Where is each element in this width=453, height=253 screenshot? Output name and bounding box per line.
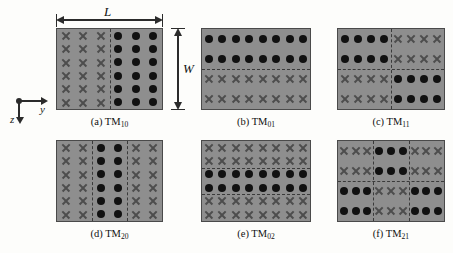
nodal-line-horizontal <box>202 194 310 195</box>
field-region-cross <box>57 141 92 221</box>
field-into-page-cross-icon <box>131 156 140 165</box>
field-out-of-page-dot-icon <box>393 95 402 104</box>
field-out-of-page-dot-icon <box>114 31 123 40</box>
field-out-of-page-dot-icon <box>339 187 348 196</box>
field-out-of-page-dot-icon <box>258 55 267 64</box>
field-out-of-page-dot-icon <box>114 210 123 219</box>
field-out-of-page-dot-icon <box>245 183 254 192</box>
field-out-of-page-dot-icon <box>231 170 240 179</box>
field-out-of-page-dot-icon <box>114 98 123 107</box>
field-into-page-cross-icon <box>258 156 267 165</box>
dimension-arrowhead-left-icon <box>56 16 64 24</box>
field-out-of-page-dot-icon <box>114 84 123 93</box>
field-out-of-page-dot-icon <box>96 210 105 219</box>
field-region-cross <box>202 194 310 221</box>
field-region-grid <box>202 141 310 221</box>
field-into-page-cross-icon <box>272 210 281 219</box>
field-into-page-cross-icon <box>258 75 267 84</box>
field-into-page-cross-icon <box>406 55 415 64</box>
field-out-of-page-dot-icon <box>285 170 294 179</box>
panel-caption-text: (e) TM <box>237 228 267 239</box>
field-out-of-page-dot-icon <box>245 35 254 44</box>
field-out-of-page-dot-icon <box>433 75 442 84</box>
field-out-of-page-dot-icon <box>375 167 384 176</box>
field-into-page-cross-icon <box>96 44 105 53</box>
field-into-page-cross-icon <box>218 95 227 104</box>
field-into-page-cross-icon <box>149 183 158 192</box>
field-out-of-page-dot-icon <box>231 55 240 64</box>
field-out-of-page-dot-icon <box>204 55 213 64</box>
field-out-of-page-dot-icon <box>131 58 140 67</box>
field-into-page-cross-icon <box>61 44 70 53</box>
field-into-page-cross-icon <box>204 75 213 84</box>
field-out-of-page-dot-icon <box>149 84 158 93</box>
field-region-cross <box>202 141 310 168</box>
field-out-of-page-dot-icon <box>367 55 376 64</box>
field-into-page-cross-icon <box>367 95 376 104</box>
panel-caption-text: (c) TM <box>372 116 402 127</box>
dimension-arrowhead-right-icon <box>155 16 163 24</box>
field-out-of-page-dot-icon <box>204 183 213 192</box>
field-out-of-page-dot-icon <box>245 170 254 179</box>
mode-panel-tm02: (e) TM02 <box>201 140 311 244</box>
field-out-of-page-dot-icon <box>245 55 254 64</box>
panel-caption-b: (b) TM01 <box>201 116 311 127</box>
field-into-page-cross-icon <box>149 156 158 165</box>
field-out-of-page-dot-icon <box>434 187 443 196</box>
dimension-line-width <box>177 28 179 110</box>
field-out-of-page-dot-icon <box>96 183 105 192</box>
field-into-page-cross-icon <box>386 187 395 196</box>
field-out-of-page-dot-icon <box>258 170 267 179</box>
field-into-page-cross-icon <box>231 196 240 205</box>
field-into-page-cross-icon <box>258 210 267 219</box>
field-into-page-cross-icon <box>231 95 240 104</box>
waveguide-cross-section <box>201 140 311 222</box>
field-into-page-cross-icon <box>218 75 227 84</box>
field-out-of-page-dot-icon <box>353 35 362 44</box>
field-into-page-cross-icon <box>79 84 88 93</box>
field-out-of-page-dot-icon <box>375 147 384 156</box>
field-out-of-page-dot-icon <box>218 35 227 44</box>
field-into-page-cross-icon <box>433 35 442 44</box>
field-into-page-cross-icon <box>231 75 240 84</box>
field-out-of-page-dot-icon <box>114 143 123 152</box>
field-into-page-cross-icon <box>61 156 70 165</box>
field-out-of-page-dot-icon <box>149 44 158 53</box>
field-out-of-page-dot-icon <box>386 147 395 156</box>
field-out-of-page-dot-icon <box>149 31 158 40</box>
field-into-page-cross-icon <box>149 143 158 152</box>
field-into-page-cross-icon <box>61 98 70 107</box>
field-out-of-page-dot-icon <box>386 167 395 176</box>
nodal-line-horizontal <box>338 69 444 70</box>
field-out-of-page-dot-icon <box>218 183 227 192</box>
field-into-page-cross-icon <box>131 143 140 152</box>
field-into-page-cross-icon <box>204 210 213 219</box>
waveguide-cross-section <box>56 140 163 222</box>
panel-caption-text: (a) TM <box>91 116 121 127</box>
field-out-of-page-dot-icon <box>410 207 419 216</box>
field-out-of-page-dot-icon <box>218 170 227 179</box>
panel-caption-subscript: 21 <box>402 232 410 241</box>
dimension-arrowhead-top-icon <box>174 28 182 36</box>
field-into-page-cross-icon <box>380 75 389 84</box>
field-into-page-cross-icon <box>79 210 88 219</box>
field-into-page-cross-icon <box>79 31 88 40</box>
field-out-of-page-dot-icon <box>422 187 431 196</box>
dimension-label-width: W <box>183 61 194 77</box>
field-into-page-cross-icon <box>131 210 140 219</box>
panel-caption-text: (f) TM <box>373 228 402 239</box>
field-into-page-cross-icon <box>245 196 254 205</box>
field-into-page-cross-icon <box>353 95 362 104</box>
tm-mode-field-pattern-figure: y z L W (a) TM10(b) TM01(c) TM11(d) TM20… <box>0 0 453 253</box>
field-out-of-page-dot-icon <box>149 71 158 80</box>
field-into-page-cross-icon <box>393 35 402 44</box>
field-into-page-cross-icon <box>79 183 88 192</box>
field-out-of-page-dot-icon <box>131 71 140 80</box>
field-into-page-cross-icon <box>79 98 88 107</box>
field-region-cross <box>409 141 444 181</box>
field-into-page-cross-icon <box>367 75 376 84</box>
panel-caption-text: (b) TM <box>237 116 267 127</box>
field-into-page-cross-icon <box>299 95 308 104</box>
field-out-of-page-dot-icon <box>149 98 158 107</box>
field-into-page-cross-icon <box>299 210 308 219</box>
